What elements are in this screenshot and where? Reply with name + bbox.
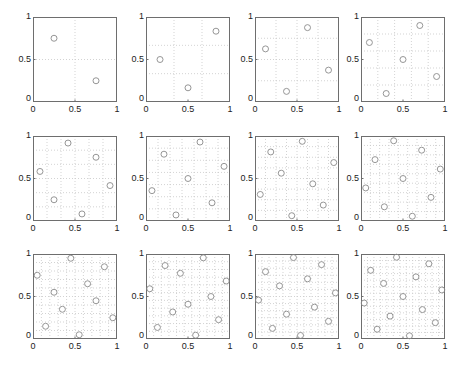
data-point-marker [381, 204, 387, 210]
y-tick-label: 1 [248, 12, 253, 21]
x-tick-label: 0 [252, 224, 257, 233]
data-point-marker [85, 281, 91, 287]
y-tick-label: 0 [26, 331, 31, 340]
data-point-marker [157, 57, 163, 63]
data-point-marker [331, 160, 337, 166]
data-point-marker [289, 213, 295, 219]
x-tick-label: 0.5 [182, 105, 195, 114]
axes-box [362, 137, 445, 221]
y-tick-label: 0.5 [240, 292, 253, 301]
data-point-marker [277, 283, 283, 289]
scatter-panel-n8 [255, 136, 339, 221]
data-point-marker [278, 170, 284, 176]
y-tick-label: 1 [354, 12, 359, 21]
data-point-marker [170, 309, 176, 315]
plot-area [255, 136, 339, 221]
scatter-panel-n13 [361, 254, 445, 339]
y-tick-label: 1 [26, 12, 31, 21]
data-point-marker [263, 46, 269, 52]
data-point-marker [209, 200, 215, 206]
data-point-marker [200, 255, 206, 261]
data-point-marker [366, 40, 372, 46]
y-tick-label: 0 [139, 94, 144, 103]
x-tick-label: 0 [30, 342, 35, 351]
data-point-marker [437, 166, 443, 172]
data-point-marker [413, 274, 419, 280]
data-point-marker [311, 304, 317, 310]
data-point-marker [400, 57, 406, 63]
data-point-marker [185, 176, 191, 182]
x-tick-label: 1 [114, 342, 119, 351]
data-point-marker [298, 332, 304, 338]
y-tick-label: 0 [139, 213, 144, 222]
data-point-marker [147, 286, 153, 292]
data-point-marker [263, 269, 269, 275]
x-tick-label: 0.5 [182, 342, 195, 351]
plot-area [361, 136, 445, 221]
plot-area [361, 17, 445, 102]
scatter-panel-n2 [33, 17, 117, 102]
y-tick-label: 1 [26, 249, 31, 258]
data-point-marker [428, 194, 434, 200]
x-tick-label: 0.5 [397, 105, 410, 114]
y-tick-label: 1 [248, 131, 253, 140]
data-point-marker [419, 307, 425, 313]
data-point-marker [110, 315, 116, 321]
scatter-panel-n4 [255, 17, 339, 102]
x-tick-label: 1 [336, 342, 341, 351]
data-point-marker [162, 263, 168, 269]
data-point-marker [257, 191, 263, 197]
data-point-marker [59, 306, 65, 312]
data-point-marker [223, 278, 229, 284]
plot-area [146, 136, 230, 221]
y-tick-label: 0 [26, 94, 31, 103]
data-point-marker [417, 23, 423, 29]
data-point-marker [93, 298, 99, 304]
data-point-marker [299, 138, 305, 144]
data-point-marker [361, 300, 367, 306]
x-tick-label: 1 [114, 224, 119, 233]
data-point-marker [34, 272, 40, 278]
x-tick-label: 1 [442, 342, 447, 351]
y-tick-label: 0.5 [18, 174, 31, 183]
axes-box [147, 18, 230, 102]
data-point-marker [268, 149, 274, 155]
data-point-marker [193, 332, 199, 338]
data-point-marker [93, 154, 99, 160]
data-point-marker [68, 255, 74, 261]
x-tick-label: 0 [30, 105, 35, 114]
y-tick-label: 0 [354, 213, 359, 222]
scatter-panel-n10 [33, 254, 117, 339]
scatter-panel-n6 [33, 136, 117, 221]
data-point-marker [197, 139, 203, 145]
x-tick-label: 0 [358, 224, 363, 233]
data-point-marker [374, 326, 380, 332]
plot-area [255, 254, 339, 339]
data-point-marker [332, 290, 338, 296]
scatter-panel-n7 [146, 136, 230, 221]
x-tick-label: 1 [227, 224, 232, 233]
y-tick-label: 0 [248, 213, 253, 222]
x-tick-label: 0 [143, 342, 148, 351]
data-point-marker [432, 320, 438, 326]
scatter-panel-n3 [146, 17, 230, 102]
data-point-marker [185, 301, 191, 307]
x-tick-label: 0 [143, 224, 148, 233]
data-point-marker [363, 185, 369, 191]
data-point-marker [387, 313, 393, 319]
data-point-marker [173, 212, 179, 218]
y-tick-label: 1 [354, 249, 359, 258]
data-point-marker [51, 197, 57, 203]
y-tick-label: 0.5 [346, 55, 359, 64]
y-tick-label: 0.5 [240, 55, 253, 64]
x-tick-label: 0 [252, 342, 257, 351]
y-tick-label: 1 [354, 131, 359, 140]
data-point-marker [65, 140, 71, 146]
y-tick-label: 1 [139, 131, 144, 140]
data-point-marker [37, 168, 43, 174]
y-tick-label: 0.5 [131, 292, 144, 301]
data-point-marker [177, 270, 183, 276]
y-tick-label: 0.5 [18, 55, 31, 64]
data-point-marker [208, 294, 214, 300]
data-point-marker [368, 267, 374, 273]
